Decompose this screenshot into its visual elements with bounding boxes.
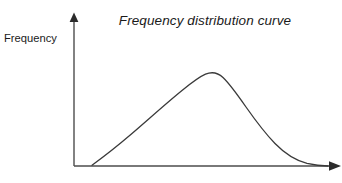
y-axis-label: Frequency — [4, 32, 57, 44]
y-axis-arrow-icon — [70, 13, 79, 23]
chart-canvas: Frequency Frequency distribution curve — [0, 0, 342, 183]
frequency-distribution-curve — [92, 73, 328, 166]
chart-title: Frequency distribution curve — [119, 13, 291, 28]
x-axis-arrow-icon — [329, 161, 341, 171]
frequency-distribution-figure: Frequency Frequency distribution curve — [0, 0, 342, 183]
